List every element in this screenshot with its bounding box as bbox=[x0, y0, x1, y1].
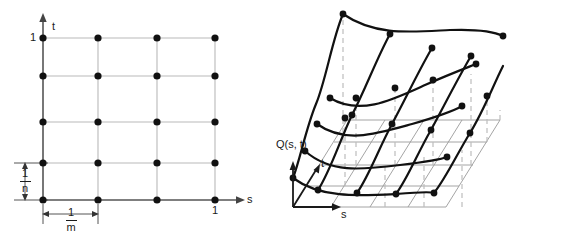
t-axis-tick-label: 1 bbox=[30, 32, 36, 43]
q-axis bbox=[290, 161, 297, 207]
s-axis-label: s bbox=[247, 194, 253, 205]
t-axis-label: t bbox=[52, 21, 55, 32]
surface-function-label: Q(s, t) bbox=[276, 139, 307, 150]
grid-nodes bbox=[39, 34, 218, 203]
s-axis-arrowhead bbox=[236, 196, 245, 203]
s-axis-tick-label: 1 bbox=[212, 205, 218, 216]
s-axis-3d-arrowhead bbox=[332, 203, 341, 210]
right-panel-surface bbox=[290, 11, 507, 211]
s-axis-3d-label: s bbox=[341, 209, 347, 220]
t-axis-arrowhead bbox=[39, 13, 46, 22]
surface-s-curves bbox=[293, 14, 503, 195]
left-panel-grid bbox=[14, 13, 245, 224]
surface-t-curves bbox=[293, 14, 503, 194]
t-axis-3d-label: t bbox=[321, 158, 324, 169]
q-axis-arrowhead bbox=[290, 161, 297, 170]
surface-nodes bbox=[290, 11, 507, 198]
s-axis-3d bbox=[293, 203, 341, 210]
spacing-y-fraction: 1 n bbox=[14, 168, 36, 194]
spacing-y-denominator: n bbox=[14, 183, 36, 195]
grid-horizontal-lines bbox=[43, 38, 215, 163]
spacing-x-numerator: 1 bbox=[60, 207, 82, 219]
spacing-x-fraction: 1 m bbox=[60, 207, 82, 233]
figure-canvas bbox=[0, 0, 561, 236]
spacing-x-denominator: m bbox=[60, 222, 82, 234]
t-axis-3d bbox=[293, 164, 320, 207]
spacing-y-numerator: 1 bbox=[14, 168, 36, 180]
axes bbox=[39, 13, 245, 204]
